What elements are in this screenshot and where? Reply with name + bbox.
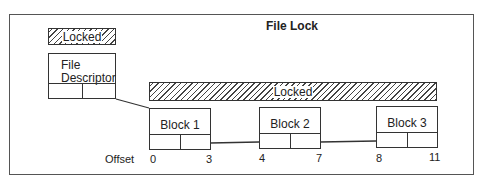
offset-label: Offset — [105, 153, 134, 165]
block-1: Block 1 — [149, 108, 211, 150]
block-2: Block 2 — [259, 107, 321, 149]
offset-0: 0 — [150, 153, 156, 165]
offset-11: 11 — [429, 151, 440, 163]
offset-4: 4 — [259, 152, 265, 164]
connector-lines — [0, 0, 486, 191]
offset-8: 8 — [376, 152, 382, 164]
offset-3: 3 — [206, 153, 212, 165]
block-3-label: Block 3 — [377, 116, 437, 130]
block-3: Block 3 — [376, 106, 438, 148]
block-2-label: Block 2 — [260, 117, 320, 131]
offset-7: 7 — [316, 152, 322, 164]
block-1-label: Block 1 — [150, 118, 210, 132]
